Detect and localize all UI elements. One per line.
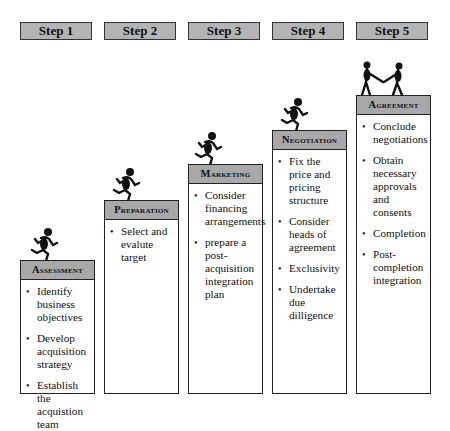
list-item: Identify business objectives bbox=[37, 285, 92, 324]
list-item: Establish the acquistion team bbox=[37, 379, 92, 431]
list-item: Exclusivity bbox=[289, 262, 344, 275]
handshake-figures-icon bbox=[358, 60, 410, 96]
list-item: Fix the price and pricing structure bbox=[289, 155, 344, 207]
stage-preparation: Preparation Select and evalute target bbox=[104, 200, 179, 394]
running-figure-icon bbox=[276, 96, 312, 132]
stage-title: Negotiation bbox=[273, 131, 346, 150]
list-item: Consider heads of agreement bbox=[289, 215, 344, 254]
list-item: Post-completion integration bbox=[373, 248, 428, 287]
list-item: Completion bbox=[373, 227, 428, 240]
stage-title: Marketing bbox=[189, 165, 262, 184]
step-4-tab: Step 4 bbox=[272, 22, 344, 40]
step-5-tab: Step 5 bbox=[356, 22, 428, 40]
stage-negotiation: Negotiation Fix the price and pricing st… bbox=[272, 130, 347, 394]
list-item: Consider financing arrangements bbox=[205, 189, 260, 228]
stage-items: Select and evalute target bbox=[105, 220, 178, 264]
stage-assessment: Assessment Identify business objectives … bbox=[20, 260, 95, 394]
list-item: Select and evalute target bbox=[121, 225, 176, 264]
step-2-tab: Step 2 bbox=[104, 22, 176, 40]
stage-title: Preparation bbox=[105, 201, 178, 220]
list-item: Undertake due dilligence bbox=[289, 283, 344, 322]
stage-agreement: Agreement Conclude negotiations Obtain n… bbox=[356, 95, 431, 394]
stage-title: Assessment bbox=[21, 261, 94, 280]
running-figure-icon bbox=[190, 130, 226, 166]
stage-items: Conclude negotiations Obtain necessary a… bbox=[357, 115, 430, 287]
step-1-tab: Step 1 bbox=[20, 22, 92, 40]
list-item: Obtain necessary approvals and consents bbox=[373, 154, 428, 219]
stage-items: Identify business objectives Develop acq… bbox=[21, 280, 94, 431]
stage-items: Consider financing arrangements prepare … bbox=[189, 184, 262, 301]
list-item: prepare a post-acquisition integration p… bbox=[205, 236, 260, 301]
step-3-tab: Step 3 bbox=[188, 22, 260, 40]
stage-items: Fix the price and pricing structure Cons… bbox=[273, 150, 346, 322]
running-figure-icon bbox=[26, 226, 62, 262]
list-item: Conclude negotiations bbox=[373, 120, 428, 146]
stage-title: Agreement bbox=[357, 96, 430, 115]
stage-marketing: Marketing Consider financing arrangement… bbox=[188, 164, 263, 394]
list-item: Develop acquisition strategy bbox=[37, 332, 92, 371]
running-figure-icon bbox=[108, 166, 144, 202]
